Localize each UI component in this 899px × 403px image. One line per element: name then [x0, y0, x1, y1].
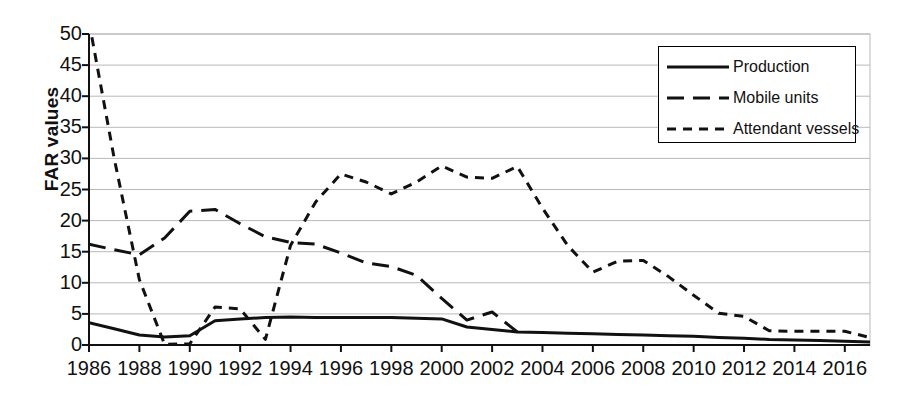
legend-swatch-short-dash-icon	[667, 122, 729, 136]
legend-item-production[interactable]: Production	[659, 51, 857, 83]
legend-swatch-long-dash-icon	[667, 91, 729, 105]
legend-label: Mobile units	[733, 89, 818, 107]
legend-label: Attendant vessels	[733, 120, 859, 138]
legend-item-attendant-vessels[interactable]: Attendant vessels	[659, 113, 857, 145]
legend-item-mobile-units[interactable]: Mobile units	[659, 82, 857, 114]
legend-label: Production	[733, 58, 810, 76]
far-values-line-chart: FAR values 50454035302520151050 19861988…	[0, 0, 899, 403]
chart-legend: ProductionMobile unitsAttendant vessels	[658, 46, 856, 143]
legend-swatch-solid-icon	[667, 60, 729, 74]
